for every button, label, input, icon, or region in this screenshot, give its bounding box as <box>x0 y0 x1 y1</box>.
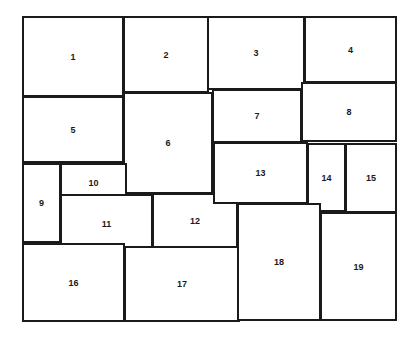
tile-label: 9 <box>39 198 44 208</box>
tile-label: 4 <box>348 45 353 55</box>
tile-6: 6 <box>123 92 213 194</box>
tile-18: 18 <box>237 203 321 321</box>
tile-17: 17 <box>124 246 240 322</box>
tile-15: 15 <box>345 143 397 213</box>
tile-label: 11 <box>102 219 112 229</box>
tile-2: 2 <box>123 16 209 93</box>
tile-label: 1 <box>70 52 75 62</box>
tile-4: 4 <box>304 16 397 83</box>
tile-16: 16 <box>22 243 125 322</box>
tile-label: 6 <box>165 138 170 148</box>
tile-label: 19 <box>353 262 363 272</box>
tile-label: 14 <box>321 173 331 183</box>
tile-13: 13 <box>213 142 308 204</box>
tile-7: 7 <box>212 89 302 143</box>
tile-label: 18 <box>274 257 284 267</box>
tile-14: 14 <box>307 143 346 212</box>
tile-label: 16 <box>68 278 78 288</box>
tile-label: 5 <box>70 125 75 135</box>
tile-label: 10 <box>88 178 98 188</box>
tile-label: 3 <box>253 48 258 58</box>
tile-3: 3 <box>207 16 305 90</box>
tile-19: 19 <box>320 212 397 321</box>
tile-label: 13 <box>255 168 265 178</box>
tile-label: 8 <box>346 107 351 117</box>
tile-5: 5 <box>22 96 124 163</box>
tile-label: 15 <box>366 173 376 183</box>
tile-label: 17 <box>177 279 187 289</box>
tile-label: 12 <box>190 216 200 226</box>
tile-diagram: 1 2 3 4 5 6 7 8 9 10 11 12 13 14 15 16 1… <box>0 0 418 341</box>
tile-label: 2 <box>163 50 168 60</box>
tile-8: 8 <box>301 82 397 142</box>
tile-9: 9 <box>22 163 61 243</box>
tile-label: 7 <box>254 111 259 121</box>
tile-1: 1 <box>22 16 124 97</box>
